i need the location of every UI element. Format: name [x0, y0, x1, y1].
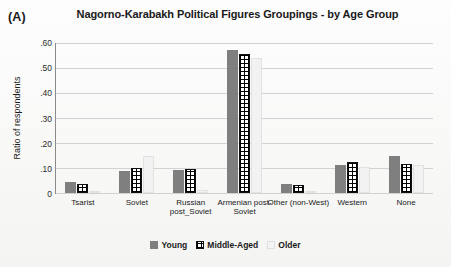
bar-young [335, 165, 346, 193]
y-axis-tick-label: .60 [40, 38, 52, 48]
y-axis-tick-label: .40 [40, 88, 52, 98]
bar-group: Russian post_Soviet [164, 43, 218, 193]
legend-label: Older [278, 240, 300, 250]
bar-middle [239, 54, 250, 193]
bar-older [143, 156, 154, 193]
bar-older [359, 167, 370, 193]
legend-swatch-middle [196, 241, 204, 249]
bar-middle [347, 162, 358, 193]
bar-group: None [379, 43, 433, 193]
bar-young [389, 156, 400, 193]
bar-young [65, 182, 76, 193]
bar-middle [131, 168, 142, 193]
bar-group: Western [325, 43, 379, 193]
legend-label: Young [161, 240, 187, 250]
bar-middle [77, 184, 88, 193]
legend-swatch-older [267, 241, 275, 249]
legend-item: Older [267, 240, 300, 250]
bar-groups: TsaristSovietRussian post_SovietArmenian… [56, 43, 433, 193]
bar-older [251, 58, 262, 193]
bar-older [305, 191, 316, 193]
y-axis-label: Ratio of respondents [10, 48, 24, 188]
bar-older [413, 165, 424, 193]
bar-group: Soviet [110, 43, 164, 193]
chart-figure: (A) Nagorno-Karabakh Political Figures G… [0, 0, 451, 267]
bar-group: Tsarist [56, 43, 110, 193]
y-axis-tick-label: .10 [40, 164, 52, 174]
plot-area: .60.50.40.30.20.100 TsaristSovietRussian… [55, 43, 433, 194]
legend-label: Middle-Aged [207, 240, 258, 250]
gridline: 0 [56, 193, 433, 194]
bar-older [89, 191, 100, 193]
chart-legend: YoungMiddle-AgedOlder [0, 240, 451, 250]
bar-young [227, 50, 238, 193]
legend-item: Young [150, 240, 187, 250]
legend-swatch-young [150, 241, 158, 249]
bar-middle [185, 169, 196, 193]
y-axis-tick-label: .50 [40, 63, 52, 73]
x-axis-tick-label: None [374, 198, 438, 207]
bar-middle [401, 164, 412, 193]
bar-older [197, 190, 208, 193]
bar-young [281, 184, 292, 193]
bar-young [119, 171, 130, 193]
y-axis-tick-label: .20 [40, 139, 52, 149]
legend-item: Middle-Aged [196, 240, 258, 250]
bar-group: Other (non-West) [271, 43, 325, 193]
y-axis-label-text: Ratio of respondents [12, 76, 22, 159]
chart-title: Nagorno-Karabakh Political Figures Group… [0, 8, 451, 20]
bar-group: Armenian post-Soviet [218, 43, 272, 193]
bar-middle [293, 185, 304, 193]
y-axis-tick-label: .30 [40, 114, 52, 124]
bar-young [173, 170, 184, 193]
